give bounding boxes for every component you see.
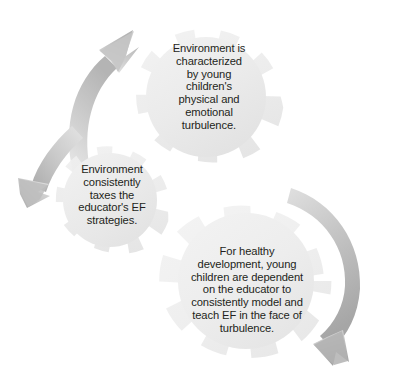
gear-shape-environment-characterized <box>128 20 293 172</box>
diagram-canvas: Environment is characterized by young ch… <box>0 0 404 374</box>
gear-shape-healthy-development <box>159 206 331 358</box>
gear-cycle-diagram <box>0 0 404 374</box>
